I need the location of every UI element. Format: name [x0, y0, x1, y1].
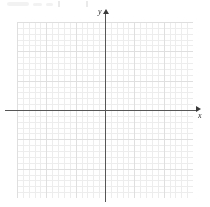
- scan-smudge: [46, 3, 53, 6]
- arrow-up-icon: [103, 9, 109, 14]
- scan-smudge: [7, 2, 29, 6]
- scan-smudge: [86, 1, 88, 7]
- scan-artifacts: [0, 0, 210, 9]
- coordinate-grid-figure: y x: [0, 0, 210, 207]
- scan-smudge: [33, 3, 42, 6]
- y-axis-line: [105, 12, 106, 202]
- y-axis-label: y: [98, 8, 102, 16]
- scan-smudge: [58, 1, 60, 7]
- x-axis-label: x: [198, 112, 202, 120]
- x-axis-line: [5, 110, 197, 111]
